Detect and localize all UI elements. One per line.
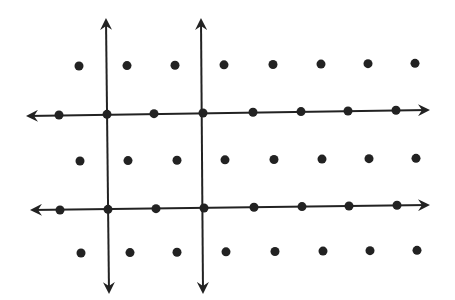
lattice-dot [173, 248, 182, 257]
lattice-dot [200, 203, 209, 212]
horizontal-arrow-line-1 [28, 110, 428, 116]
lattice-dot [366, 246, 375, 255]
lattice-dot [173, 156, 182, 165]
lattice-dot [55, 111, 64, 120]
lattice-dot [297, 107, 306, 116]
lattice-dot [270, 155, 279, 164]
horizontal-arrow-line-2 [32, 205, 428, 210]
lattice-dot [220, 60, 229, 69]
lattice-dot [199, 108, 208, 117]
lattice-dot [250, 203, 259, 212]
lattice-dot [171, 61, 180, 70]
vertical-arrow-line-1 [106, 20, 109, 292]
lattice-dot [319, 247, 328, 256]
lattice-dot [75, 62, 84, 71]
lattice-dot [271, 247, 280, 256]
lattice-dot [150, 109, 159, 118]
lattice-dot [104, 205, 113, 214]
lattice-dot [103, 110, 112, 119]
lattice-dot [318, 155, 327, 164]
lattice-dot [249, 108, 258, 117]
lattice-dot [344, 106, 353, 115]
lattice-diagram [0, 0, 455, 300]
lattice-dot [412, 154, 421, 163]
lattice-dot [152, 204, 161, 213]
lattice-dot [76, 157, 85, 166]
lattice-dot [365, 154, 374, 163]
lattice-dot [298, 202, 307, 211]
lattice-dots [55, 59, 422, 258]
lattice-dot [222, 247, 231, 256]
lattice-dot [126, 248, 135, 257]
lattice-dot [413, 246, 422, 255]
lattice-dot [221, 155, 230, 164]
lattice-dot [317, 60, 326, 69]
lattice-dot [345, 201, 354, 210]
lattice-dot [411, 59, 420, 68]
lattice-dot [392, 106, 401, 115]
lattice-dot [123, 61, 132, 70]
lattice-dot [364, 59, 373, 68]
lattice-dot [269, 60, 278, 69]
vertical-arrow-line-2 [201, 20, 203, 292]
lattice-dot [393, 201, 402, 210]
lattice-dot [124, 156, 133, 165]
lattice-dot [56, 206, 65, 215]
lattice-dot [77, 249, 86, 258]
